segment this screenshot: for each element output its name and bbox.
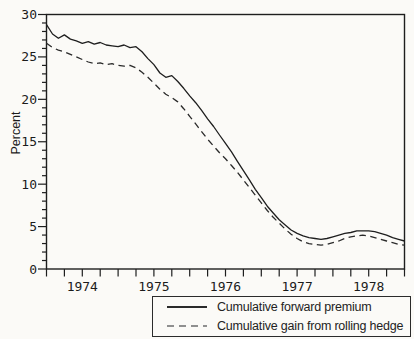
legend-item-forward-premium: Cumulative forward premium xyxy=(153,299,410,315)
y-tick-label: 15 xyxy=(21,134,37,149)
x-tick-label: 1974 xyxy=(67,279,98,294)
forward-premium-line xyxy=(47,25,405,241)
y-tick-label: 10 xyxy=(21,177,37,192)
y-tick-label: 30 xyxy=(21,7,37,22)
plot-border xyxy=(47,15,405,270)
y-axis-title: Percent xyxy=(9,111,23,154)
y-tick-label: 25 xyxy=(21,49,37,64)
chart-figure: 05101520253019741975197619771978 Percent… xyxy=(0,0,414,339)
y-tick-label: 20 xyxy=(21,92,37,107)
x-tick-label: 1975 xyxy=(138,279,169,294)
x-tick-label: 1977 xyxy=(281,279,312,294)
legend-label-forward-premium: Cumulative forward premium xyxy=(217,300,372,314)
legend-label-rolling-hedge: Cumulative gain from rolling hedge xyxy=(217,319,403,333)
x-tick-label: 1976 xyxy=(210,279,241,294)
y-tick-label: 5 xyxy=(29,219,37,234)
y-tick-label: 0 xyxy=(29,262,37,277)
legend-box: Cumulative forward premium Cumulative ga… xyxy=(152,296,411,337)
solid-line-sample-icon xyxy=(167,306,207,308)
x-tick-label: 1978 xyxy=(353,279,384,294)
legend-item-rolling-hedge: Cumulative gain from rolling hedge xyxy=(153,318,410,334)
dashed-line-sample-icon xyxy=(167,325,207,327)
line-chart-canvas: 05101520253019741975197619771978 xyxy=(0,0,414,339)
